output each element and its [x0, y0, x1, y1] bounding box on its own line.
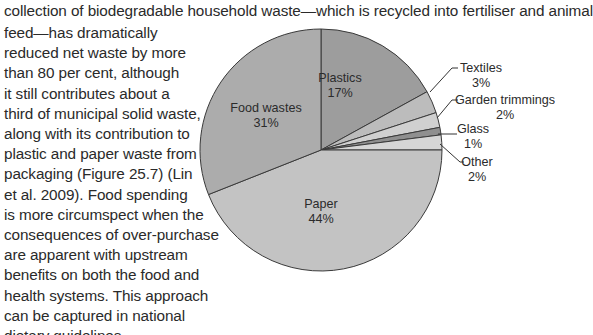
- body-text-line: can be captured in national: [4, 306, 204, 326]
- value-textiles: 3%: [472, 76, 490, 90]
- body-text-line: health systems. This approach: [4, 286, 204, 306]
- value-paper: 44%: [308, 212, 333, 226]
- body-text-line-cutoff: dietary guidelines.: [4, 326, 204, 335]
- label-garden-trimmings: Garden trimmings: [455, 93, 555, 107]
- label-food-wastes: Food wastes: [230, 101, 301, 115]
- label-other: Other: [461, 155, 493, 169]
- value-plastics: 17%: [327, 86, 352, 100]
- pie-slices: [200, 29, 442, 271]
- leader-line-textiles: [430, 68, 458, 92]
- label-textiles: Textiles: [460, 61, 502, 75]
- value-garden-trimmings: 2%: [496, 108, 514, 122]
- value-glass: 1%: [464, 137, 482, 151]
- value-other: 2%: [468, 170, 486, 184]
- label-glass: Glass: [457, 122, 489, 136]
- value-food-wastes: 31%: [253, 116, 278, 130]
- label-paper: Paper: [304, 197, 338, 211]
- label-plastics: Plastics: [318, 71, 361, 85]
